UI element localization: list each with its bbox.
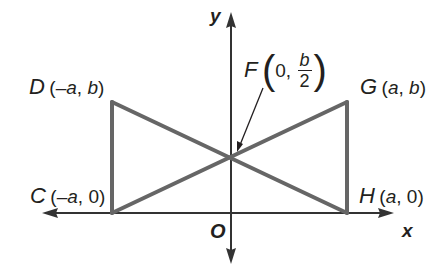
point-label-C: C (–a, 0) <box>30 185 105 207</box>
paren-close: ) <box>99 186 105 207</box>
coord-sep: , <box>77 77 88 98</box>
coord-x: –a <box>56 77 77 98</box>
coord-x: a <box>388 77 399 98</box>
origin-label: O <box>210 221 226 241</box>
x-axis-left-arrow-icon <box>42 208 58 218</box>
point-label-F: F (0, b 2 ) <box>244 50 327 90</box>
y-axis-down-arrow-icon <box>226 248 236 264</box>
bowtie-figure <box>112 102 347 213</box>
y-axis-label: y <box>210 6 221 25</box>
x-axis-right-arrow-icon <box>378 208 394 218</box>
paren-close: ) <box>98 77 104 98</box>
pointer-arrow <box>240 88 263 145</box>
point-label-D: D (–a, b) <box>29 76 104 98</box>
fraction-numerator: b <box>298 51 312 71</box>
coord-x: a <box>386 186 397 207</box>
coord-sep: , <box>78 186 89 207</box>
point-name: C <box>30 183 46 208</box>
coord-y: b <box>87 77 98 98</box>
coord-y: 0 <box>407 186 418 207</box>
fraction-denominator: 2 <box>298 71 312 90</box>
point-label-G: G (a, b) <box>360 76 426 98</box>
coord-y: 0 <box>88 186 99 207</box>
paren-open: ( <box>262 48 275 92</box>
coord-y: b <box>409 77 420 98</box>
point-name: H <box>359 183 375 208</box>
x-axis-label: x <box>402 221 413 240</box>
fraction-b-over-2: b 2 <box>298 51 312 90</box>
point-label-H: H (a, 0) <box>359 185 424 207</box>
paren-close: ) <box>314 48 327 92</box>
paren-close: ) <box>417 186 423 207</box>
point-name: F <box>244 57 257 82</box>
coord-sep: , <box>398 77 409 98</box>
point-name: G <box>360 74 377 99</box>
y-axis-up-arrow-icon <box>226 12 236 28</box>
coord-x: –a <box>57 186 78 207</box>
paren-close: ) <box>420 77 426 98</box>
coord-x: 0, <box>275 60 291 81</box>
coord-sep: , <box>396 186 407 207</box>
point-name: D <box>29 74 45 99</box>
